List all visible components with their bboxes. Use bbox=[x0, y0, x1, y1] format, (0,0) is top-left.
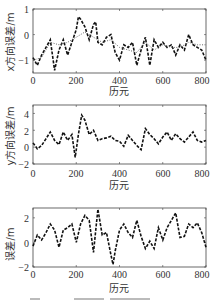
ytick-2: 2 bbox=[24, 126, 29, 137]
xtick-200: 200 bbox=[69, 168, 84, 179]
total-error-panel: 误差/m 2 0 −2 0 200 400 600 800 历元 bbox=[0, 192, 214, 296]
ytick-0: 0 bbox=[24, 30, 29, 41]
total-error-ylabel: 误差/m bbox=[4, 227, 16, 260]
ytick-1: 1 bbox=[24, 4, 29, 15]
ytick-0: 0 bbox=[24, 238, 29, 249]
x-error-chart: x方向误差/m 1 0 −1 0 200 400 600 800 历元 bbox=[0, 0, 214, 96]
ytick-4: 4 bbox=[24, 109, 29, 120]
xtick-600: 600 bbox=[156, 269, 171, 280]
xtick-800: 800 bbox=[195, 75, 210, 86]
xtick-600: 600 bbox=[156, 168, 171, 179]
xtick-0: 0 bbox=[31, 269, 36, 280]
series-dashed-line bbox=[33, 209, 206, 264]
xtick-800: 800 bbox=[195, 168, 210, 179]
figure-caption-truncated bbox=[30, 298, 190, 304]
xtick-800: 800 bbox=[195, 269, 210, 280]
x-error-panel: x方向误差/m 1 0 −1 0 200 400 600 800 历元 bbox=[0, 0, 214, 96]
y-error-ylabel: y方向误差/m bbox=[4, 106, 16, 165]
plot-frame bbox=[33, 105, 206, 164]
total-error-xlabel: 历元 bbox=[109, 283, 129, 294]
ytick-neg2: −2 bbox=[18, 159, 29, 170]
series-dashed-line bbox=[33, 115, 206, 157]
ytick-0: 0 bbox=[24, 142, 29, 153]
plot-frame bbox=[33, 9, 206, 73]
xtick-400: 400 bbox=[112, 168, 127, 179]
xtick-600: 600 bbox=[156, 75, 171, 86]
xtick-0: 0 bbox=[31, 75, 36, 86]
total-error-chart: 误差/m 2 0 −2 0 200 400 600 800 历元 bbox=[0, 192, 214, 296]
y-error-panel: y方向误差/m 4 2 0 −2 0 200 400 600 800 历元 bbox=[0, 96, 214, 192]
x-error-ylabel: x方向误差/m bbox=[4, 12, 16, 71]
x-error-xlabel: 历元 bbox=[109, 86, 129, 96]
ytick-neg2: −2 bbox=[18, 262, 29, 273]
y-error-xlabel: 历元 bbox=[109, 180, 129, 191]
ytick-2: 2 bbox=[24, 213, 29, 224]
xtick-400: 400 bbox=[112, 75, 127, 86]
xtick-200: 200 bbox=[69, 75, 84, 86]
ytick-neg1: −1 bbox=[18, 55, 29, 66]
xtick-0: 0 bbox=[31, 168, 36, 179]
series-dashed-line bbox=[33, 17, 206, 71]
xtick-200: 200 bbox=[69, 269, 84, 280]
y-error-chart: y方向误差/m 4 2 0 −2 0 200 400 600 800 历元 bbox=[0, 96, 214, 192]
xtick-400: 400 bbox=[112, 269, 127, 280]
